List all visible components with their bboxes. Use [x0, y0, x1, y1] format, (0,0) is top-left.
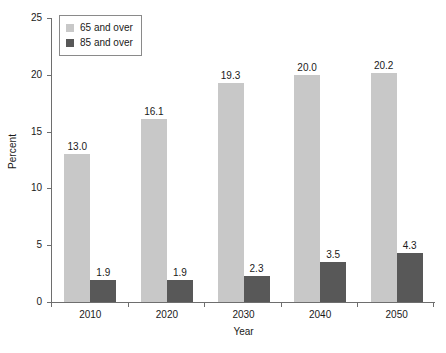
x-axis-tick-marks — [51, 303, 435, 307]
bar: 1.9 — [167, 280, 193, 302]
chart-legend: 65 and over85 and over — [59, 15, 142, 56]
x-axis-tick-label: 2040 — [309, 309, 331, 321]
bar-value-label: 16.1 — [144, 106, 163, 117]
x-axis-tick-label: 2010 — [79, 309, 101, 321]
y-axis-title-text: Percent — [8, 133, 19, 168]
legend-item-label: 85 and over — [80, 37, 133, 48]
bar-group: 16.11.9 — [141, 18, 193, 302]
x-axis-tick-mark — [433, 303, 434, 307]
y-axis-tick-labels: 0510152025 — [20, 0, 42, 353]
plot-area: 13.01.916.11.919.32.320.03.520.24.3 — [52, 18, 435, 302]
x-axis-tick-labels: 20102020203020402050 — [52, 309, 435, 323]
x-axis-tick-mark — [51, 303, 52, 307]
bar-value-label: 4.3 — [403, 240, 417, 251]
bar: 1.9 — [90, 280, 116, 302]
bar: 13.0 — [64, 154, 90, 302]
bar-chart: Percent 0510152025 13.01.916.11.919.32.3… — [0, 0, 446, 353]
y-axis-tick-label: 20 — [20, 70, 42, 80]
x-axis-tick-mark — [281, 303, 282, 307]
bar-value-label: 20.2 — [374, 60, 393, 71]
legend-item-label: 65 and over — [80, 22, 133, 33]
x-axis-title: Year — [52, 326, 435, 337]
bar-group: 19.32.3 — [218, 18, 270, 302]
legend-item: 85 and over — [66, 35, 133, 50]
y-axis-tick-label: 5 — [20, 240, 42, 250]
legend-item: 65 and over — [66, 20, 133, 35]
bar: 20.2 — [371, 73, 397, 302]
bar: 3.5 — [320, 262, 346, 302]
x-axis-tick-mark — [357, 303, 358, 307]
bar: 4.3 — [397, 253, 423, 302]
bar-group: 20.24.3 — [371, 18, 423, 302]
y-axis-tick-label: 25 — [20, 13, 42, 23]
bar-group: 20.03.5 — [294, 18, 346, 302]
x-axis-tick-mark — [204, 303, 205, 307]
bar-group: 13.01.9 — [64, 18, 116, 302]
x-axis-tick-label: 2030 — [232, 309, 254, 321]
bar: 2.3 — [244, 276, 270, 302]
x-axis-tick-mark — [128, 303, 129, 307]
bar-value-label: 3.5 — [326, 249, 340, 260]
legend-swatch-icon — [66, 39, 74, 47]
x-axis-tick-label: 2050 — [386, 309, 408, 321]
bar-value-label: 1.9 — [173, 267, 187, 278]
bar-value-label: 2.3 — [250, 263, 264, 274]
y-axis-tick-label: 10 — [20, 183, 42, 193]
bar: 20.0 — [294, 75, 320, 302]
bar-value-label: 20.0 — [297, 62, 316, 73]
y-axis-tick-label: 15 — [20, 127, 42, 137]
x-axis-tick-label: 2020 — [156, 309, 178, 321]
bar-value-label: 1.9 — [96, 267, 110, 278]
bar-value-label: 13.0 — [68, 141, 87, 152]
bar-value-label: 19.3 — [221, 70, 240, 81]
y-axis-tick-label: 0 — [20, 297, 42, 307]
legend-swatch-icon — [66, 24, 74, 32]
bar: 19.3 — [218, 83, 244, 302]
bar: 16.1 — [141, 119, 167, 302]
